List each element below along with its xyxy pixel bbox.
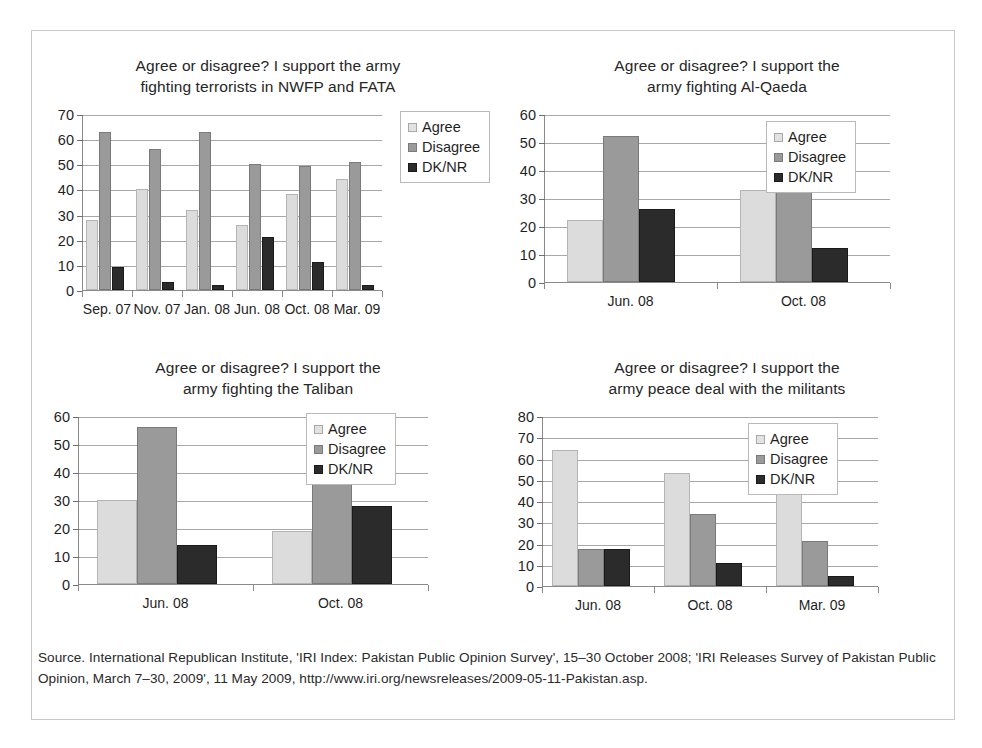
legend-swatch-agree-icon [408,123,417,132]
bar-dknr [112,267,124,290]
y-axis-tick-label: 0 [42,283,74,299]
bar-dknr [604,549,630,586]
y-axis-tick-mark [73,501,79,502]
y-axis-tick-label: 10 [504,247,536,263]
bar-agree [86,220,98,290]
y-axis-tick-mark [537,417,543,418]
legend-item-agree: Agree [314,419,386,439]
chart-title-line-1: Agree or disagree? I support the [538,357,916,378]
legend-label: DK/NR [788,167,833,187]
legend-label: Disagree [422,137,480,157]
y-axis-tick-mark [537,481,543,482]
x-axis-tick-mark [890,283,891,289]
chart-title-al-qaeda: Agree or disagree? I support the army fi… [498,55,956,97]
chart-title-nwfp-fata: Agree or disagree? I support the army fi… [38,55,498,97]
x-axis-tick-label: Nov. 07 [133,301,180,317]
chart-title-line-2: army fighting the Taliban [78,378,458,399]
y-axis-tick-label: 60 [502,452,534,468]
bar-disagree [149,149,161,290]
bar-agree [740,190,776,282]
y-axis-tick-mark [537,566,543,567]
legend-peace-deal: AgreeDisagreeDK/NR [748,423,838,495]
y-axis-tick-mark [537,502,543,503]
chart-title-line-2: army fighting Al-Qaeda [538,76,916,97]
y-axis-tick-label: 30 [38,493,70,509]
chart-title-line-2: fighting terrorists in NWFP and FATA [78,76,458,97]
bar-agree [286,194,298,290]
y-axis-tick-label: 10 [42,258,74,274]
x-axis-tick-mark [282,291,283,297]
bar-agree [664,473,690,586]
x-axis-tick-label: Oct. 08 [687,597,732,613]
x-axis-tick-mark [132,291,133,297]
chart-title-line-2: army peace deal with the militants [538,378,916,399]
x-axis-tick-mark [382,291,383,297]
x-axis-tick-mark [878,587,879,593]
bar-disagree [299,166,311,290]
y-axis-tick-mark [537,523,543,524]
bar-dknr [362,285,374,290]
y-axis-tick-label: 20 [502,537,534,553]
y-axis-tick-label: 30 [502,515,534,531]
legend-swatch-disagree-icon [408,143,417,152]
bar-agree [97,500,137,584]
legend-label: Agree [770,429,809,449]
x-axis-tick-mark [766,587,767,593]
plot-area-nwfp-fata [82,115,382,291]
x-axis-tick-label: Jan. 08 [184,301,230,317]
y-axis-tick-mark [77,190,83,191]
y-axis-tick-label: 50 [42,157,74,173]
y-axis-tick-mark [537,438,543,439]
y-axis-tick-mark [539,143,545,144]
y-axis-tick-mark [537,545,543,546]
x-axis-tick-mark [253,585,254,591]
y-axis-tick-mark [77,241,83,242]
y-axis-tick-mark [77,115,83,116]
x-axis-tick-mark [232,291,233,297]
x-axis-tick-mark [82,291,83,297]
legend-label: DK/NR [770,469,815,489]
legend-item-agree: Agree [756,429,828,449]
legend-label: Agree [422,117,461,137]
legend-swatch-dknr-icon [408,163,417,172]
x-axis-tick-mark [332,291,333,297]
y-axis-tick-label: 0 [38,577,70,593]
legend-swatch-dknr-icon [314,465,323,474]
bar-agree [552,450,578,586]
gridline [545,115,890,116]
charts-grid: Agree or disagree? I support the army fi… [32,31,956,643]
bar-dknr [162,282,174,290]
x-axis-tick-mark [182,291,183,297]
x-axis-tick-label: Oct. 08 [284,301,329,317]
plot-wrap-peace-deal: 01020304050607080Jun. 08Oct. 08Mar. 09Ag… [498,409,956,623]
bar-dknr [212,285,224,290]
bar-agree [186,210,198,290]
legend-item-agree: Agree [408,117,480,137]
chart-panel-taliban: Agree or disagree? I support the army fi… [38,337,498,639]
y-axis-tick-mark [539,255,545,256]
x-axis-tick-label: Mar. 09 [799,597,846,613]
x-axis-tick-label: Jun. 08 [234,301,280,317]
bar-disagree [99,132,111,290]
x-axis-tick-label: Jun. 08 [575,597,621,613]
y-axis-tick-label: 50 [502,473,534,489]
y-axis-tick-label: 70 [42,107,74,123]
bar-dknr [312,262,324,290]
plot-wrap-al-qaeda: 0102030405060Jun. 08Oct. 08AgreeDisagree… [498,107,956,319]
legend-swatch-agree-icon [774,133,783,142]
bar-agree [272,531,312,584]
gridline [543,417,878,418]
legend-label: Agree [788,127,827,147]
legend-swatch-agree-icon [314,425,323,434]
y-axis-tick-mark [73,445,79,446]
gridline [83,165,382,166]
legend-item-dknr: DK/NR [408,157,480,177]
y-axis-tick-label: 50 [38,437,70,453]
y-axis-tick-label: 30 [504,191,536,207]
y-axis-tick-label: 40 [504,163,536,179]
x-axis-tick-label: Oct. 08 [781,293,826,309]
bar-dknr [262,237,274,290]
x-axis-tick-mark [544,283,545,289]
y-axis-tick-mark [539,227,545,228]
x-axis-tick-mark [78,585,79,591]
